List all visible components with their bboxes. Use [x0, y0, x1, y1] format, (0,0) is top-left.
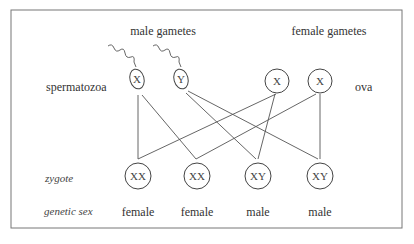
svg-text:XY: XY: [250, 170, 266, 182]
zygote-label: zygote: [45, 172, 73, 184]
zygote-4: XY: [307, 163, 333, 189]
sex-value-3: male: [246, 205, 269, 220]
genetic-sex-label: genetic sex: [44, 205, 93, 217]
female-gametes-heading: female gametes: [292, 24, 367, 39]
svg-text:X: X: [273, 75, 281, 87]
svg-text:X: X: [133, 73, 141, 85]
sperm-x: X: [108, 45, 146, 91]
connection-lines: [138, 91, 320, 159]
zygote-1: XX: [125, 163, 151, 189]
zygote-2: XX: [184, 163, 210, 189]
sperm-y: Y: [153, 45, 190, 91]
male-gametes-heading: male gametes: [130, 24, 196, 39]
sex-value-4: male: [308, 205, 331, 220]
ovum-1: X: [265, 69, 289, 93]
ova-label: ova: [355, 80, 372, 95]
frame-border: [11, 10, 402, 228]
svg-text:X: X: [316, 75, 324, 87]
spermatozoa-label: spermatozoa: [46, 80, 107, 95]
ovum-2: X: [308, 69, 332, 93]
svg-text:XX: XX: [130, 170, 146, 182]
tail-icon: [108, 45, 136, 67]
svg-text:XY: XY: [312, 170, 328, 182]
svg-text:Y: Y: [177, 73, 185, 85]
sex-value-1: female: [122, 205, 155, 220]
sex-value-2: female: [181, 205, 214, 220]
svg-text:XX: XX: [189, 170, 205, 182]
tail-icon: [153, 45, 181, 67]
zygote-3: XY: [245, 163, 271, 189]
